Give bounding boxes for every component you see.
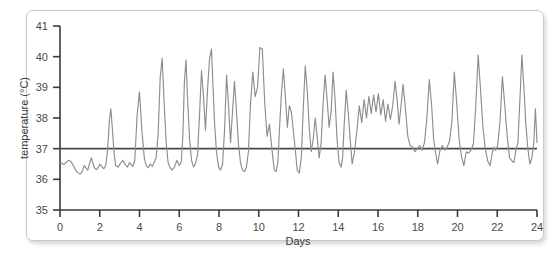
- x-tick-label-20: 20: [451, 221, 463, 233]
- x-axis-ticks: 024681012141618202224: [57, 210, 543, 233]
- x-tick-label-0: 0: [57, 221, 63, 233]
- y-axis-title: temperature (°C): [18, 77, 30, 159]
- x-tick-label-12: 12: [292, 221, 304, 233]
- y-tick-label-35: 35: [36, 204, 48, 216]
- data-series-group: [60, 47, 537, 173]
- x-tick-label-24: 24: [531, 221, 543, 233]
- chart-axes: [60, 26, 537, 210]
- x-tick-label-18: 18: [412, 221, 424, 233]
- y-tick-label-40: 40: [36, 51, 48, 63]
- figure-root: 35363738394041 024681012141618202224 Day…: [0, 0, 557, 268]
- y-tick-label-41: 41: [36, 20, 48, 32]
- x-tick-label-2: 2: [97, 221, 103, 233]
- x-tick-label-22: 22: [491, 221, 503, 233]
- x-tick-label-6: 6: [176, 221, 182, 233]
- y-tick-label-38: 38: [36, 112, 48, 124]
- y-tick-label-36: 36: [36, 173, 48, 185]
- x-tick-label-14: 14: [332, 221, 344, 233]
- temperature-line-chart: 35363738394041 024681012141618202224 Day…: [0, 0, 557, 268]
- y-tick-label-37: 37: [36, 143, 48, 155]
- x-tick-label-10: 10: [253, 221, 265, 233]
- x-tick-label-8: 8: [216, 221, 222, 233]
- x-tick-label-4: 4: [136, 221, 142, 233]
- y-tick-label-39: 39: [36, 81, 48, 93]
- y-axis-ticks: 35363738394041: [36, 20, 60, 216]
- series-line-temperature: [60, 47, 537, 173]
- x-axis-title: Days: [285, 235, 311, 247]
- x-tick-label-16: 16: [372, 221, 384, 233]
